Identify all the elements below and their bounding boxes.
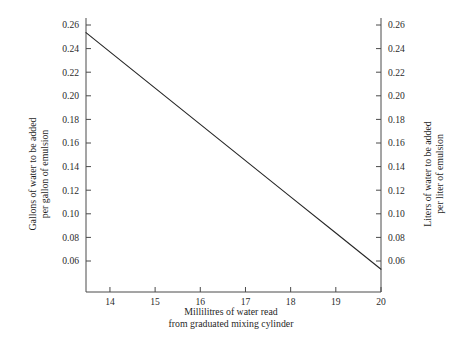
x-tick-label: 14 <box>105 296 115 307</box>
x-axis-caption: Millilitres of water read from graduated… <box>169 306 295 329</box>
right-tick-label: 0.24 <box>388 43 405 54</box>
right-tick-label: 0.14 <box>388 161 405 172</box>
left-tick-label: 0.14 <box>62 161 79 172</box>
left-tick-label: 0.08 <box>62 232 79 243</box>
left-axis-title: Gallons of water to be added per gallon … <box>27 117 50 230</box>
left-tick-label: 0.22 <box>62 67 79 78</box>
left-tick-label: 0.20 <box>62 90 79 101</box>
left-tick-label: 0.16 <box>62 137 79 148</box>
x-axis-caption-line1: Millilitres of water read <box>184 306 277 317</box>
right-tick-label: 0.18 <box>388 114 405 125</box>
left-tick-label: 0.24 <box>62 43 79 54</box>
x-tick-label: 19 <box>331 296 341 307</box>
x-tick-label: 18 <box>286 296 296 307</box>
right-tick-label: 0.08 <box>388 232 405 243</box>
left-tick-label: 0.12 <box>62 185 79 196</box>
right-tick-label: 0.26 <box>388 19 405 30</box>
right-axis-title-line2: per liter of emulsion <box>434 134 445 214</box>
right-tick-label: 0.22 <box>388 67 405 78</box>
right-axis-title: Liters of water to be added per liter of… <box>422 121 445 226</box>
x-axis-caption-line2: from graduated mixing cylinder <box>169 318 295 329</box>
chart-figure: 0.060.080.100.120.140.160.180.200.220.24… <box>0 0 463 342</box>
x-tick-label: 20 <box>376 296 386 307</box>
left-tick-label: 0.26 <box>62 19 79 30</box>
right-tick-label: 0.20 <box>388 90 405 101</box>
x-tick-label: 15 <box>150 296 160 307</box>
right-tick-label: 0.16 <box>388 137 405 148</box>
left-axis-title-line1: Gallons of water to be added <box>27 117 38 230</box>
right-axis-title-line1: Liters of water to be added <box>422 121 433 226</box>
left-tick-label: 0.10 <box>62 208 79 219</box>
right-tick-label: 0.06 <box>388 255 405 266</box>
left-axis-title-line2: per gallon of emulsion <box>39 130 50 219</box>
right-tick-label: 0.10 <box>388 208 405 219</box>
right-tick-label: 0.12 <box>388 185 405 196</box>
left-tick-label: 0.18 <box>62 114 79 125</box>
left-tick-label: 0.06 <box>62 255 79 266</box>
line-chart: 0.060.080.100.120.140.160.180.200.220.24… <box>0 0 463 342</box>
